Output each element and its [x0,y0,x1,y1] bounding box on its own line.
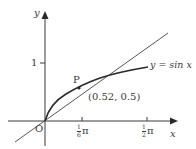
point-p-marker [77,86,80,89]
pi-symbol: π [82,125,89,136]
frac-den: 6 [77,132,81,138]
x-axis-label: x [170,129,176,139]
x-tick-label-pi-6: 16 π [77,124,89,138]
pi-symbol: π [147,125,154,136]
frac-num: 1 [77,124,81,130]
y-tick-label-1: 1 [31,58,37,68]
frac-num: 1 [142,124,146,130]
frac-den: 2 [142,132,146,138]
y-axis-label: y [34,8,40,18]
point-coords-label: (0.52, 0.5) [88,92,140,102]
origin-label: O [35,124,43,134]
x-axis-arrow-icon [170,118,178,125]
y-axis-arrow-icon [42,11,49,19]
chart-canvas [0,0,196,149]
point-p-label: P [73,75,80,85]
x-tick-label-pi-2: 12 π [142,124,154,138]
curve-label: y = sin x [150,60,192,70]
